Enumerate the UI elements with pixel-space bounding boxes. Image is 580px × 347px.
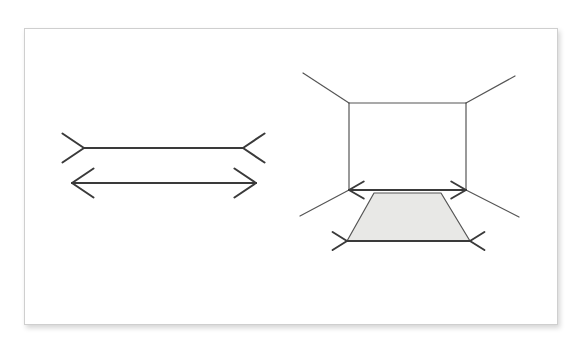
floor-base-left-arrowhead-leg-2 xyxy=(333,232,347,241)
floor-trapezoid xyxy=(347,193,470,241)
muller-lyer-upper-shaft xyxy=(62,133,264,162)
muller-lyer-lower-shaft-right-fins-leg-1 xyxy=(234,183,256,198)
corner-diagonal-bottom-left xyxy=(300,190,349,216)
muller-lyer-lower-shaft-right-fins-leg-2 xyxy=(234,168,256,183)
corner-diagonal-bottom-right xyxy=(466,190,519,217)
corner-diagonal-top-right xyxy=(466,76,515,103)
wall-base-left-arrowhead-leg-1 xyxy=(349,182,364,191)
muller-lyer-upper-shaft-left-fins-leg-2 xyxy=(62,133,84,148)
muller-lyer-lower-shaft xyxy=(72,168,256,197)
muller-lyer-upper-shaft-left-fins xyxy=(62,133,84,162)
muller-lyer-lower-shaft-left-fins-leg-1 xyxy=(72,168,94,183)
floor-base-right-arrowhead-leg-1 xyxy=(470,232,484,241)
floor-base-right-arrowhead xyxy=(470,232,484,250)
back-wall-rectangle xyxy=(349,103,466,190)
muller-lyer-lower-shaft-left-fins-leg-2 xyxy=(72,183,94,198)
illusion-figure-canvas xyxy=(0,0,580,347)
floor-base-left-arrowhead xyxy=(333,232,347,250)
corner-diagonal-top-left xyxy=(303,73,349,103)
wall-base-right-arrowhead-leg-2 xyxy=(451,182,466,191)
wall-base-left-arrowhead-leg-2 xyxy=(349,190,364,199)
muller-lyer-upper-shaft-left-fins-leg-1 xyxy=(62,148,84,163)
corridor-perspective-figure xyxy=(300,73,519,250)
figures-svg xyxy=(0,0,580,347)
muller-lyer-upper-shaft-right-fins-leg-2 xyxy=(243,148,265,163)
figures-layer xyxy=(0,0,580,347)
muller-lyer-figure xyxy=(62,133,264,197)
muller-lyer-upper-shaft-right-fins xyxy=(243,133,265,162)
muller-lyer-upper-shaft-right-fins-leg-1 xyxy=(243,133,265,148)
wall-base-right-arrowhead-leg-1 xyxy=(451,190,466,199)
floor-base-left-arrowhead-leg-1 xyxy=(333,241,347,250)
floor-base-right-arrowhead-leg-2 xyxy=(470,241,484,250)
